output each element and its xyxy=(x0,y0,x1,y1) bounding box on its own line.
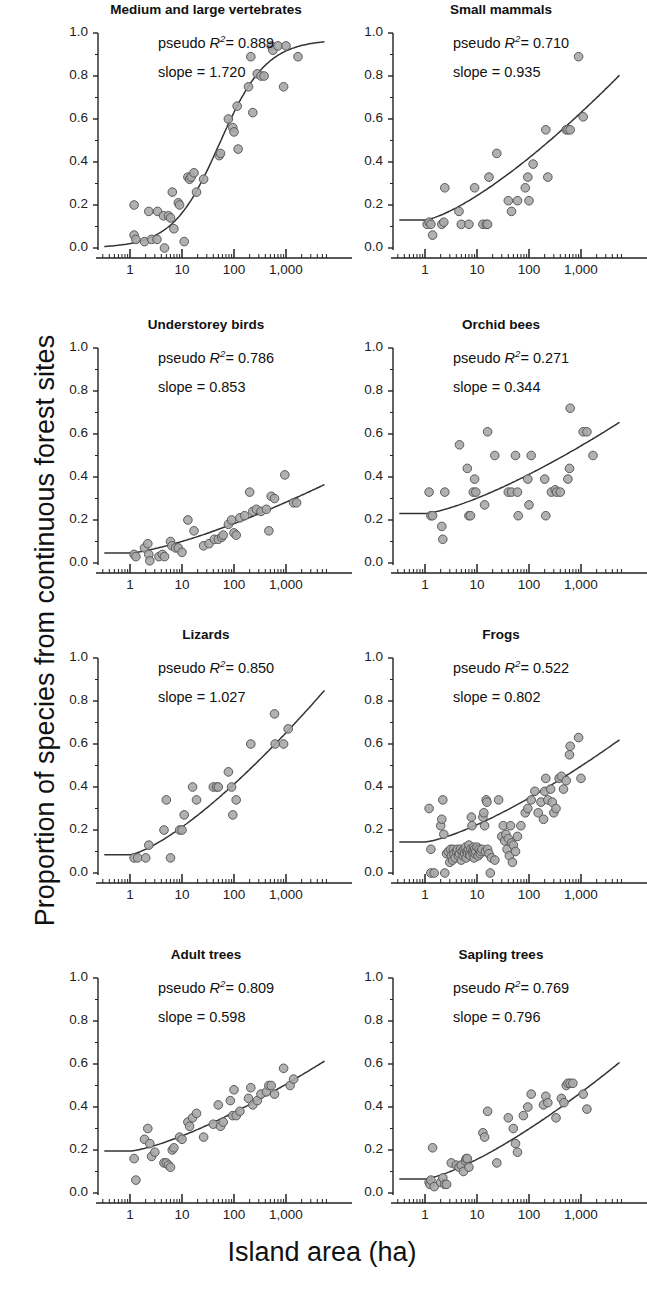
y-tick-label: 0.2 xyxy=(349,511,383,526)
pseudo-r2-annotation: pseudo R2= 0.809 xyxy=(158,978,274,996)
data-point xyxy=(486,869,495,878)
data-point xyxy=(455,441,464,450)
y-tick-label: 0.8 xyxy=(54,692,88,707)
data-point xyxy=(440,218,449,227)
data-point xyxy=(483,220,492,229)
fitted-curve xyxy=(104,690,324,854)
data-point xyxy=(480,809,489,818)
x-tick-label: 1 xyxy=(106,887,154,902)
x-tick-label: 100 xyxy=(210,262,258,277)
data-point xyxy=(441,869,450,878)
y-tick-label: 0.2 xyxy=(54,1141,88,1156)
y-tick-label: 0.6 xyxy=(54,425,88,440)
data-point xyxy=(190,169,199,178)
data-point xyxy=(439,796,448,805)
y-tick-label: 1.0 xyxy=(54,24,88,39)
data-point xyxy=(180,237,189,246)
x-tick-label: 100 xyxy=(210,1207,258,1222)
data-point xyxy=(544,1098,553,1107)
data-point xyxy=(569,1079,578,1088)
data-point xyxy=(511,451,520,460)
data-point xyxy=(560,1098,569,1107)
slope-annotation: slope = 0.802 xyxy=(453,689,540,705)
panel-title: Sapling trees xyxy=(355,947,647,962)
data-point xyxy=(270,494,279,503)
data-point xyxy=(294,52,303,61)
data-point xyxy=(141,854,150,863)
data-point xyxy=(559,785,568,794)
data-point xyxy=(483,428,492,437)
data-point xyxy=(170,1144,179,1153)
data-point xyxy=(574,52,583,61)
data-point xyxy=(491,451,500,460)
data-point xyxy=(509,1124,518,1133)
data-point xyxy=(439,535,448,544)
data-point xyxy=(178,826,187,835)
panel-title: Small mammals xyxy=(355,2,647,17)
data-point xyxy=(513,832,522,841)
data-point xyxy=(247,52,256,61)
data-point xyxy=(514,511,523,520)
data-point xyxy=(230,128,239,137)
data-point xyxy=(546,785,555,794)
x-tick-label: 1,000 xyxy=(557,887,605,902)
y-tick-label: 0.2 xyxy=(54,511,88,526)
y-tick-label: 0.0 xyxy=(54,239,88,254)
data-point xyxy=(244,83,253,92)
data-point xyxy=(527,451,536,460)
data-point xyxy=(146,557,155,566)
data-point xyxy=(470,475,479,484)
data-point xyxy=(236,1107,245,1116)
data-point xyxy=(589,451,598,460)
data-point xyxy=(511,847,520,856)
data-point xyxy=(427,845,436,854)
x-tick-label: 10 xyxy=(453,577,501,592)
data-point xyxy=(442,1180,451,1189)
x-tick-label: 1 xyxy=(401,887,449,902)
data-point xyxy=(178,1135,187,1144)
y-tick-label: 0.8 xyxy=(54,67,88,82)
y-tick-label: 1.0 xyxy=(54,339,88,354)
data-point xyxy=(185,1122,194,1131)
panel-understorey-birds: Understorey birds pseudo R2= 0.786 slope… xyxy=(60,315,352,605)
y-tick-label: 0.6 xyxy=(54,735,88,750)
data-point xyxy=(232,796,241,805)
data-point xyxy=(577,774,586,783)
data-point xyxy=(539,815,548,824)
x-tick-label: 10 xyxy=(453,1207,501,1222)
data-point xyxy=(483,1107,492,1116)
data-point xyxy=(262,505,271,514)
data-point xyxy=(130,1154,139,1163)
data-point xyxy=(504,1114,513,1123)
x-tick-label: 10 xyxy=(158,1207,206,1222)
y-tick-label: 0.0 xyxy=(54,554,88,569)
x-tick-label: 1,000 xyxy=(557,262,605,277)
data-point xyxy=(224,768,233,777)
data-point xyxy=(521,184,530,193)
x-tick-label: 100 xyxy=(505,577,553,592)
data-point xyxy=(199,175,208,184)
data-point xyxy=(525,501,534,510)
x-tick-label: 100 xyxy=(505,1207,553,1222)
data-point xyxy=(132,552,141,561)
y-tick-label: 0.8 xyxy=(349,382,383,397)
data-point xyxy=(527,796,536,805)
y-tick-label: 0.0 xyxy=(349,239,383,254)
data-point xyxy=(192,796,201,805)
data-point xyxy=(292,499,301,508)
data-point xyxy=(493,1159,502,1168)
pseudo-r2-annotation: pseudo R2= 0.889 xyxy=(158,33,274,51)
data-point xyxy=(470,184,479,193)
data-point xyxy=(566,126,575,135)
data-point xyxy=(180,811,189,820)
panel-title: Medium and large vertebrates xyxy=(60,2,352,17)
x-tick-label: 10 xyxy=(158,262,206,277)
data-point xyxy=(465,1163,474,1172)
data-point xyxy=(517,821,526,830)
data-points xyxy=(425,1079,591,1191)
data-point xyxy=(513,488,522,497)
data-point xyxy=(153,235,162,244)
data-point xyxy=(144,1124,153,1133)
data-point xyxy=(219,531,228,540)
